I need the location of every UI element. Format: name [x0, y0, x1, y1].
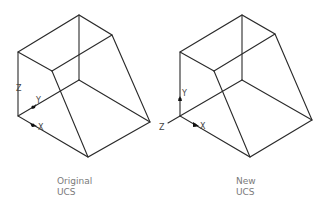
- wedge-edge: [214, 71, 250, 157]
- x-axis-label: X: [200, 122, 206, 131]
- wedge-edge: [52, 35, 112, 71]
- y-axis-label: Y: [35, 96, 41, 105]
- z-axis-label: Z: [16, 84, 22, 93]
- wedge-edge: [242, 80, 312, 120]
- x-axis-marker: [193, 123, 196, 126]
- caption-line-1: New: [236, 176, 256, 187]
- wedge-edge: [79, 80, 150, 122]
- new-ucs-caption: New UCS: [236, 176, 256, 198]
- original-ucs-caption: Original UCS: [57, 176, 92, 198]
- wedge-edge: [52, 71, 88, 157]
- original-ucs-wedge: [18, 15, 150, 157]
- new-ucs-wedge: [180, 15, 312, 157]
- new-ucs-axes: Y Z X: [159, 89, 206, 132]
- wedge-edge: [180, 52, 214, 71]
- wedge-outline: [18, 15, 150, 157]
- x-axis-marker: [31, 123, 34, 126]
- x-axis-label: X: [38, 123, 44, 132]
- y-axis-marker: [31, 105, 34, 108]
- caption-line-2: UCS: [57, 187, 92, 198]
- wedge-edge: [18, 80, 79, 116]
- wedge-edge: [18, 52, 52, 71]
- y-axis-label: Y: [181, 89, 187, 98]
- ucs-diagram: Z Y X Y Z X: [0, 0, 327, 209]
- wedge-outline: [180, 15, 312, 157]
- z-axis-line: [168, 116, 180, 123]
- original-ucs-axes: Z Y X: [16, 84, 44, 132]
- wedge-edge: [180, 80, 242, 116]
- z-axis-label: Z: [159, 123, 165, 132]
- caption-line-2: UCS: [236, 187, 256, 198]
- wedge-edge: [214, 34, 275, 71]
- caption-line-1: Original: [57, 176, 92, 187]
